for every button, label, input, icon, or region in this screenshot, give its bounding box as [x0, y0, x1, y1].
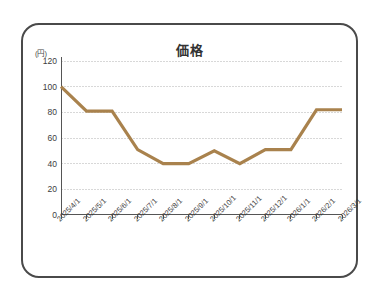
data-line [61, 87, 342, 164]
y-axis-tick-label: 40 [23, 159, 57, 169]
y-axis-tick-label: 100 [23, 82, 57, 92]
y-axis-tick-labels: 020406080100120 [23, 61, 57, 215]
x-axis-tick-labels: 2025/4/12025/5/12025/6/12025/7/12025/8/1… [61, 217, 342, 277]
y-axis-tick-label: 20 [23, 184, 57, 194]
y-axis-tick-label: 60 [23, 133, 57, 143]
y-axis-tick-label: 120 [23, 56, 57, 66]
plot-area [61, 61, 342, 215]
chart-title: 価格 [23, 40, 356, 59]
y-axis-tick-label: 0 [23, 210, 57, 220]
chart-svg [61, 61, 342, 215]
chart-screenshot: 価格 (円) 020406080100120 2025/4/12025/5/12… [0, 0, 378, 303]
y-axis-tick-label: 80 [23, 107, 57, 117]
chart-card: 価格 (円) 020406080100120 2025/4/12025/5/12… [21, 23, 358, 278]
